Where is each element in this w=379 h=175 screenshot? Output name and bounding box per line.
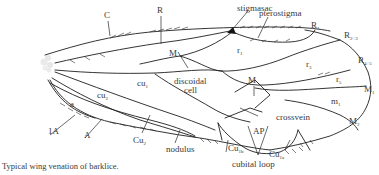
label-r3: r3 (306, 59, 312, 70)
label-M-upper: M (169, 48, 177, 58)
label-R23: R2+3 (344, 30, 358, 41)
label-nodulus: nodulus (166, 144, 195, 154)
radius-vein (55, 31, 230, 63)
label-R: R (157, 5, 163, 15)
label-r1: r1 (237, 45, 243, 56)
m-upper-vein (180, 40, 340, 71)
label-AP: AP (253, 126, 265, 136)
label-C: C (104, 10, 110, 20)
r45-vein (222, 70, 350, 85)
rs-vein (140, 32, 232, 64)
pterostigma-lower (233, 30, 315, 42)
label-1A: 1A (48, 126, 60, 136)
label-A: A (84, 130, 91, 140)
label-cubital-loop: cubital loop (232, 159, 275, 169)
label-M-lower: M (248, 75, 256, 85)
label-R45: R4+5 (358, 55, 372, 66)
figure-caption: Typical wing venation of barklice. (2, 161, 119, 171)
label-cell: cell (184, 85, 197, 95)
discoidal-cell-boundary (55, 70, 222, 73)
m1-vein (255, 86, 366, 90)
costa-vein (45, 27, 330, 55)
label-M1: M1 (364, 84, 375, 95)
label-pterostigma: pterostigma (259, 8, 302, 18)
label-a: a (70, 99, 74, 109)
label-m1: m1 (331, 96, 341, 107)
label-r5: r5 (336, 74, 342, 85)
label-Cu2: Cu2 (133, 135, 147, 146)
wing-venation-figure: C R stigmasac pterostigma R1 R2+3 R4+5 r… (0, 0, 379, 175)
label-cu1: cu1 (137, 78, 149, 89)
label-R1: R1 (311, 20, 320, 31)
anal-vein-a (50, 83, 195, 136)
label-Cu1b: Cu1b (228, 143, 244, 154)
label-M2: M2 (349, 116, 360, 127)
wing-base-hairs (41, 55, 54, 73)
cu1a-vein (298, 130, 310, 150)
label-crossvein: crossvein (276, 112, 310, 122)
wing-diagram: C R stigmasac pterostigma R1 R2+3 R4+5 r… (0, 0, 379, 175)
label-cu2: cu2 (97, 90, 109, 101)
